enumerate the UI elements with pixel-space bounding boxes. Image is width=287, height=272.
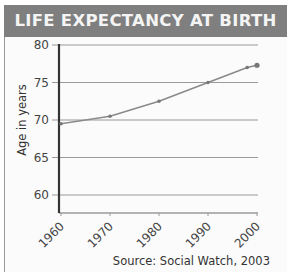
y-tick-label: 70 xyxy=(34,113,49,127)
x-tick-label: 1960 xyxy=(36,219,67,250)
data-point xyxy=(245,66,249,70)
x-tick-label: 1980 xyxy=(134,219,165,250)
x-tick-label: 1990 xyxy=(183,219,214,250)
y-tick-label: 80 xyxy=(34,38,49,52)
x-tick-label: 1970 xyxy=(85,219,116,250)
y-tick-label: 75 xyxy=(34,76,49,90)
data-line xyxy=(61,65,257,124)
data-point xyxy=(157,99,161,103)
y-axis-label: Age in years xyxy=(15,84,29,156)
source-note: Source: Social Watch, 2003 xyxy=(113,254,270,268)
y-tick-label: 60 xyxy=(34,188,49,202)
data-point xyxy=(59,122,63,126)
line-chart: 606570758019601970198019902000Age in yea… xyxy=(0,0,287,272)
data-point xyxy=(254,63,259,68)
data-point xyxy=(206,81,210,85)
data-point xyxy=(108,114,112,118)
x-tick-label: 2000 xyxy=(232,219,263,250)
y-tick-label: 65 xyxy=(34,151,49,165)
